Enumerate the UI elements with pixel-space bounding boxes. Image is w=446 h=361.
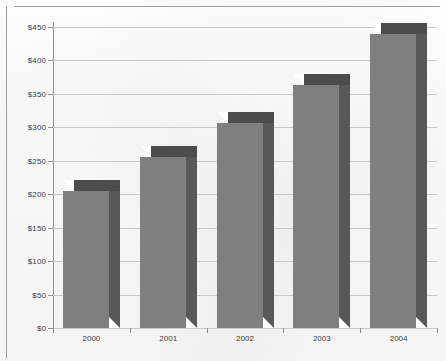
x-axis-tick xyxy=(360,328,361,333)
x-axis-tick xyxy=(53,328,54,333)
bar-chart: $450$400$350$300$250$200$150$100$50$0 20… xyxy=(0,0,446,361)
bar-front-face xyxy=(140,157,186,328)
bar-2000 xyxy=(63,180,109,328)
y-axis-tick xyxy=(48,194,53,195)
bar-top-bevel xyxy=(217,112,228,123)
y-axis-tick xyxy=(48,295,53,296)
y-axis-tick-label: $400 xyxy=(28,56,46,65)
bar-front-face xyxy=(63,191,109,328)
x-axis-tick-label: 2003 xyxy=(313,334,331,343)
bar-side-face xyxy=(186,146,197,328)
bar-side-bevel xyxy=(416,317,427,328)
x-axis-tick-label: 2002 xyxy=(236,334,254,343)
bar-front-face xyxy=(217,123,263,328)
bar-side-bevel xyxy=(339,317,350,328)
bar-top-face xyxy=(151,146,197,157)
bar-2004 xyxy=(370,23,416,328)
bar-top-bevel xyxy=(293,74,304,85)
gridline xyxy=(53,328,437,329)
bar-side-bevel xyxy=(263,317,274,328)
y-axis-tick xyxy=(48,127,53,128)
x-axis-tick-label: 2001 xyxy=(159,334,177,343)
y-axis-tick xyxy=(48,228,53,229)
x-axis-tick-label: 2004 xyxy=(390,334,408,343)
y-axis-tick-label: $150 xyxy=(28,223,46,232)
bar-top-bevel xyxy=(370,23,381,34)
bar-top-bevel xyxy=(63,180,74,191)
x-axis-tick xyxy=(437,328,438,333)
x-axis-tick xyxy=(130,328,131,333)
bar-top-face xyxy=(228,112,274,123)
bar-side-bevel xyxy=(109,317,120,328)
y-axis-tick xyxy=(48,161,53,162)
bar-side-face xyxy=(339,74,350,328)
y-axis-tick-label: $0 xyxy=(37,324,46,333)
bar-top-face xyxy=(381,23,427,34)
bar-side-face xyxy=(109,180,120,328)
x-axis-tick xyxy=(283,328,284,333)
y-axis-tick xyxy=(48,94,53,95)
y-axis-tick-label: $50 xyxy=(32,290,46,299)
x-axis-tick-label: 2000 xyxy=(82,334,100,343)
bar-side-bevel xyxy=(186,317,197,328)
y-axis-tick xyxy=(48,60,53,61)
y-axis-labels: $450$400$350$300$250$200$150$100$50$0 xyxy=(0,27,46,328)
bar-side-face xyxy=(263,112,274,328)
y-axis-tick-label: $450 xyxy=(28,23,46,32)
bar-top-face xyxy=(74,180,120,191)
y-axis-tick xyxy=(48,261,53,262)
bar-front-face xyxy=(293,85,339,328)
bar-2003 xyxy=(293,74,339,328)
y-axis-tick-label: $300 xyxy=(28,123,46,132)
y-axis-tick-label: $350 xyxy=(28,89,46,98)
bar-front-face xyxy=(370,34,416,328)
x-axis-tick xyxy=(207,328,208,333)
bar-top-bevel xyxy=(140,146,151,157)
bar-2002 xyxy=(217,112,263,328)
y-axis-tick-label: $200 xyxy=(28,190,46,199)
bar-2001 xyxy=(140,146,186,328)
y-axis-tick xyxy=(48,27,53,28)
y-axis-tick-label: $250 xyxy=(28,156,46,165)
y-axis-tick-label: $100 xyxy=(28,257,46,266)
bar-side-face xyxy=(416,23,427,328)
bar-top-face xyxy=(304,74,350,85)
